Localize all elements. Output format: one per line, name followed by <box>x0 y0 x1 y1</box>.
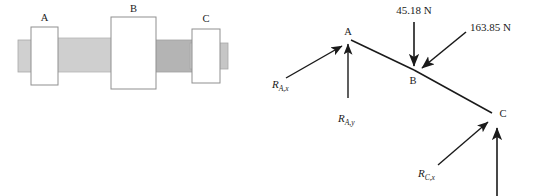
load-b-diagonal-label: 163.85 N <box>470 21 511 33</box>
free-body-diagram-svg: A B C RA,x RA,y 45.18 N 163.85 N RC,x <box>270 0 541 196</box>
node-c-label: C <box>499 108 506 119</box>
member-a-b <box>351 40 414 70</box>
reaction-ray-label: RA,y <box>337 112 355 127</box>
reaction-rax-arrow <box>286 46 342 78</box>
reaction-rcx-arrow <box>438 122 488 165</box>
collar-a <box>31 27 58 85</box>
collar-c <box>192 29 220 83</box>
shaft-assembly-panel: A B C <box>0 0 270 196</box>
shaft-assembly-svg: A B C <box>0 0 270 196</box>
node-b-label: B <box>409 75 416 86</box>
member-b-c <box>414 70 492 113</box>
load-b-vertical-label: 45.18 N <box>396 4 432 16</box>
collar-a-label: A <box>41 12 49 23</box>
figure-canvas: A B C A B C RA,x <box>0 0 541 196</box>
collar-b <box>111 17 156 89</box>
reaction-rax-label: RA,x <box>271 78 289 93</box>
node-a-label: A <box>344 26 352 37</box>
free-body-diagram-panel: A B C RA,x RA,y 45.18 N 163.85 N RC,x <box>270 0 541 196</box>
collar-b-label: B <box>130 3 137 14</box>
collar-c-label: C <box>202 13 209 24</box>
load-b-diagonal-arrow <box>422 32 466 68</box>
reaction-rcx-label: RC,x <box>417 167 436 182</box>
